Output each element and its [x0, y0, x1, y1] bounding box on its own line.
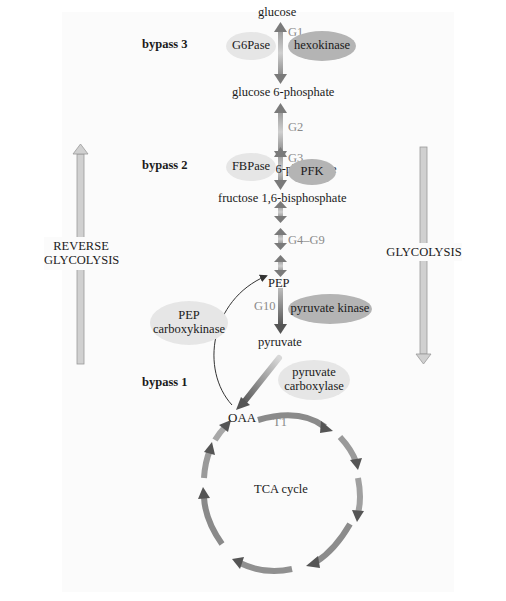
metabolite-pep: PEP: [268, 277, 290, 290]
enzyme-hexokinase: hexokinase: [288, 31, 356, 61]
metabolite-pyruvate: pyruvate: [258, 336, 302, 349]
step-g2: G2: [288, 121, 303, 134]
pyruvate-carboxylase-arrow: [236, 358, 279, 410]
metabolite-fructose-1-6-bisphosphate: fructose 1,6-bisphosphate: [218, 192, 346, 205]
metabolite-glucose-6-phosphate: glucose 6-phosphate: [232, 86, 334, 99]
g1-double-arrow: [274, 22, 287, 84]
enzyme-pfk: PFK: [288, 159, 336, 185]
step-t1: T1: [273, 416, 287, 429]
enzyme-pyruvate-kinase: pyruvate kinase: [288, 294, 372, 324]
tca-cycle-label: TCA cycle: [254, 483, 308, 496]
metabolite-oaa: OAA: [228, 411, 256, 424]
step-g10: G10: [254, 300, 276, 313]
enzyme-g6pase: G6Pase: [226, 32, 276, 60]
enzyme-pyruvate-carboxylase: pyruvate carboxylase: [278, 360, 350, 400]
enzyme-pep-carboxykinase: PEP carboxykinase: [150, 301, 228, 345]
g4-g9-double-arrows: [274, 201, 287, 277]
g10-arrow: [274, 288, 287, 334]
reverse-glycolysis-label: REVERSE GLYCOLYSIS: [44, 237, 118, 270]
metabolite-glucose: glucose: [258, 6, 296, 19]
step-g4-g9: G4–G9: [288, 234, 325, 247]
bypass-3-label: bypass 3: [142, 38, 188, 51]
enzyme-fbpase: FBPase: [226, 153, 276, 181]
glycolysis-label: GLYCOLYSIS: [386, 243, 462, 261]
bypass-2-label: bypass 2: [142, 159, 188, 172]
bypass-1-label: bypass 1: [142, 376, 188, 389]
